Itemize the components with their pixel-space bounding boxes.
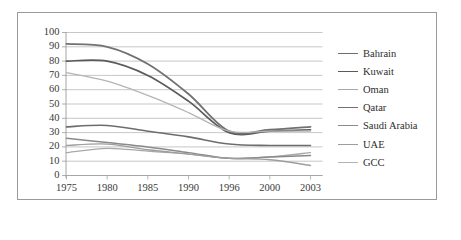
y-axis-label: 50 <box>34 99 60 109</box>
y-axis-label: 10 <box>34 156 60 166</box>
legend-item-bahrain[interactable]: Bahrain <box>338 44 450 62</box>
legend-swatch-icon <box>338 107 358 108</box>
x-axis-label: 1990 <box>172 182 206 193</box>
legend-item-kuwait[interactable]: Kuwait <box>338 62 450 80</box>
legend-item-saudi-arabia[interactable]: Saudi Arabia <box>338 117 450 135</box>
x-axis-ticks <box>66 176 323 180</box>
legend-label: Bahrain <box>363 48 396 59</box>
x-axis-label: 2000 <box>253 182 287 193</box>
series-line-qatar <box>67 44 311 134</box>
legend-label: Saudi Arabia <box>363 120 418 131</box>
legend-swatch-icon <box>338 71 358 72</box>
y-axis-label: 60 <box>34 84 60 94</box>
legend-swatch-icon <box>338 162 358 163</box>
legend-swatch-icon <box>338 53 358 54</box>
legend-label: Kuwait <box>363 66 394 77</box>
legend-label: Qatar <box>363 102 386 113</box>
series-line-gcc <box>67 73 311 133</box>
series-line-kuwait <box>67 60 311 135</box>
y-axis-label: 40 <box>34 113 60 123</box>
legend-label: Oman <box>363 84 389 95</box>
y-axis-label: 100 <box>34 27 60 37</box>
x-axis-label: 1985 <box>131 182 165 193</box>
legend-item-gcc[interactable]: GCC <box>338 153 450 171</box>
y-axis-label: 20 <box>34 141 60 151</box>
x-axis-label: 1975 <box>50 182 84 193</box>
legend-label: UAE <box>363 139 385 150</box>
x-axis-label: 1980 <box>90 182 124 193</box>
legend-item-oman[interactable]: Oman <box>338 80 450 98</box>
chart-legend: BahrainKuwaitOmanQatarSaudi ArabiaUAEGCC <box>338 44 450 171</box>
legend-item-qatar[interactable]: Qatar <box>338 99 450 117</box>
x-axis-label: 2003 <box>294 182 328 193</box>
legend-label: GCC <box>363 157 385 168</box>
legend-swatch-icon <box>338 89 358 90</box>
legend-swatch-icon <box>338 144 358 145</box>
y-axis-label: 0 <box>34 170 60 180</box>
x-axis-label: 1996 <box>212 182 246 193</box>
y-axis-label: 90 <box>34 41 60 51</box>
legend-item-uae[interactable]: UAE <box>338 135 450 153</box>
y-axis-ticks <box>62 33 66 176</box>
y-axis-label: 70 <box>34 70 60 80</box>
y-axis-label: 30 <box>34 127 60 137</box>
y-axis-label: 80 <box>34 56 60 66</box>
legend-swatch-icon <box>338 125 358 126</box>
